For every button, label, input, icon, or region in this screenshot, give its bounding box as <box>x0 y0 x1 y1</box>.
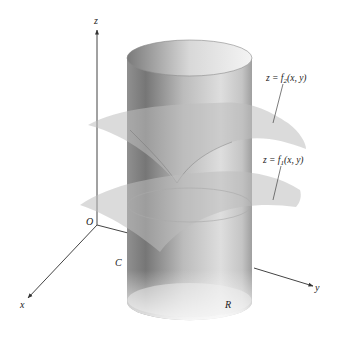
region-r <box>128 283 252 317</box>
y-axis-label: y <box>314 282 320 293</box>
z-axis-label: z <box>93 15 98 26</box>
svg-text:z = f2(x, y): z = f2(x, y) <box>265 73 307 85</box>
region-r-label: R <box>224 299 231 310</box>
diagram-figure: z y x O C R z = f2(x, y) z = f1(x, y) <box>0 0 339 337</box>
curve-c-label: C <box>115 257 122 268</box>
y-axis <box>97 225 128 233</box>
svg-text:z = f1(x, y): z = f1(x, y) <box>262 155 304 167</box>
x-axis-label: x <box>19 299 25 310</box>
origin-label: O <box>86 216 93 227</box>
x-axis <box>28 225 97 298</box>
y-axis-front <box>254 268 313 286</box>
